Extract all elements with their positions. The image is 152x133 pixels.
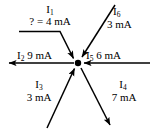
label-i5-subscript: 5: [90, 54, 94, 63]
label-i6-symbol: I6: [113, 6, 147, 19]
label-i2: I2 9 mA: [17, 50, 52, 63]
junction-node-dot: [75, 60, 81, 66]
label-i6-value: 3 mA: [107, 19, 151, 31]
label-i5-value: 6 mA: [96, 49, 121, 61]
label-i5: I5 6 mA: [86, 50, 121, 63]
label-i2-value: 9 mA: [27, 49, 52, 61]
label-i1-value: ? = 4 mA: [14, 16, 86, 28]
label-i4-value: 7 mA: [99, 92, 149, 104]
current-junction-diagram: I1 ? = 4 mA I2 9 mA I5 6 mA I6 3 mA I3 3…: [0, 0, 152, 133]
label-i4-symbol: I4: [106, 79, 140, 92]
label-i3-value: 3 mA: [14, 92, 64, 104]
label-i3-symbol: I3: [22, 79, 56, 92]
label-i2-subscript: 2: [21, 54, 25, 63]
